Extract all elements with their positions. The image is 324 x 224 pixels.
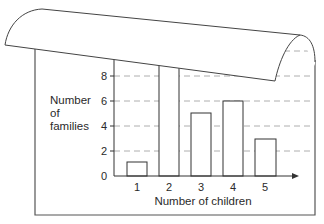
y-tick-2: 2 xyxy=(101,145,107,157)
x-tick-5: 5 xyxy=(262,181,268,193)
y-axis-title: Number of families xyxy=(50,94,91,132)
y-axis-title-line-3: families xyxy=(50,120,89,132)
x-axis-title: Number of children xyxy=(154,195,251,207)
chart-figure: 0 2 4 6 8 1 2 3 4 5 Number of children N… xyxy=(0,0,324,224)
bar-4-children xyxy=(223,101,243,176)
x-tick-3: 3 xyxy=(198,181,204,193)
y-tick-4: 4 xyxy=(101,120,107,132)
y-tick-marks xyxy=(110,76,114,151)
y-axis-title-line-1: Number xyxy=(50,94,91,106)
x-tick-4: 4 xyxy=(230,181,236,193)
bar-1-children xyxy=(127,162,147,176)
x-tick-labels: 1 2 3 4 5 xyxy=(134,181,268,193)
y-tick-0: 0 xyxy=(101,170,107,182)
x-tick-2: 2 xyxy=(166,181,172,193)
x-axis-arrow-icon xyxy=(292,173,299,179)
bar-3-children xyxy=(191,113,211,176)
y-tick-6: 6 xyxy=(101,95,107,107)
x-tick-1: 1 xyxy=(134,181,140,193)
bar-5-children xyxy=(255,139,276,176)
y-tick-labels: 0 2 4 6 8 xyxy=(101,70,107,182)
y-axis-title-line-2: of xyxy=(50,107,60,119)
y-tick-8: 8 xyxy=(101,70,107,82)
